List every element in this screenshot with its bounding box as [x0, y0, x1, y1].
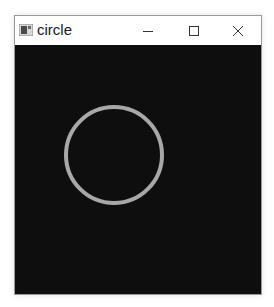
canvas-svg — [15, 45, 261, 294]
app-icon — [19, 24, 33, 36]
close-button[interactable] — [215, 16, 261, 45]
maximize-button[interactable] — [171, 16, 217, 45]
app-window: circle — [14, 15, 262, 295]
maximize-icon — [188, 25, 200, 37]
drawing-canvas[interactable] — [15, 45, 261, 294]
minimize-button[interactable] — [125, 16, 171, 45]
drawn-circle — [66, 107, 162, 203]
close-icon — [232, 25, 244, 37]
window-title: circle — [37, 21, 72, 39]
minimize-icon — [142, 25, 154, 37]
title-bar[interactable]: circle — [15, 16, 261, 45]
